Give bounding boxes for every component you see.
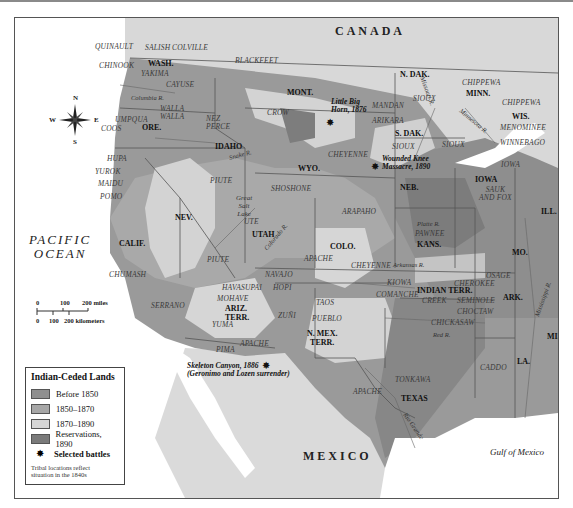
state-texas: TEXAS (401, 395, 428, 403)
tribe-walla-walla: WALLA WALLA (160, 105, 184, 122)
legend-title: Indian-Ceded Lands (31, 372, 119, 382)
tribe-cheyenne-north: CHEYENNE (328, 151, 368, 159)
tribe-blackfeet: BLACKFEET (235, 57, 278, 65)
state-neb: NEB. (400, 184, 418, 192)
ocean-label-line2: OCEAN (29, 247, 91, 261)
compass-s: S (73, 138, 77, 146)
tribe-kiowa: KIOWA (387, 279, 411, 287)
state-miss: MISS. (547, 333, 559, 341)
compass-icon (55, 100, 95, 140)
tribe-crow: CROW (267, 109, 289, 117)
tribe-navajo: NAVAJO (265, 271, 293, 279)
compass-n: N (73, 94, 78, 102)
state-nmex-line2: TERR. (307, 339, 337, 348)
gsl-line2: Salt (236, 202, 252, 210)
scale-bar-line (36, 308, 96, 316)
gulf-label: Gulf of Mexico (490, 448, 544, 457)
tribe-pawnee: PAWNEE (415, 230, 445, 238)
river-columbia: Columbia R. (131, 95, 164, 102)
tribe-walla-line2: WALLA (160, 113, 184, 121)
tribe-nez-perce: NEZ PERCE (206, 115, 230, 132)
battle-wounded-knee-label: Wounded Knee Massacre, 1890 (382, 155, 430, 172)
compass-rose: N S E W (55, 100, 95, 140)
tribe-piute-north: PIUTE (210, 177, 232, 185)
battle-star-icon: ✸ (326, 118, 334, 128)
legend-label: Reservations, 1890 (56, 429, 119, 449)
tribe-comanche: COMANCHE (376, 291, 419, 299)
compass-e: E (94, 116, 99, 124)
top-border (0, 0, 573, 2)
state-wyo: WYO. (298, 165, 320, 173)
river-arkansas: Arkansas R. (393, 262, 424, 269)
tribe-yuma: YUMA (212, 321, 233, 329)
tribe-serrano: SERRANO (151, 302, 185, 310)
great-salt-lake-label: Great Salt Lake (236, 194, 252, 218)
tribe-shoshone: SHOSHONE (271, 185, 311, 193)
state-mont: MONT. (287, 89, 313, 97)
battle-star-icon: ✸ (262, 361, 270, 371)
state-mo: MO. (512, 249, 528, 257)
scale-miles-0: 0 (36, 299, 39, 306)
legend-item-1850-1870: 1850–1870 (31, 401, 119, 416)
scale-km-0: 0 (36, 317, 39, 324)
tribe-yakima: YAKIMA (141, 70, 169, 78)
tribe-apache-texas: APACHE (353, 388, 382, 396)
river-red: Red R. (433, 332, 450, 339)
gsl-line1: Great (236, 194, 252, 202)
tribe-mohave: MOHAVE (217, 295, 249, 303)
legend-item-before-1850: Before 1850 (31, 386, 119, 401)
legend-note-line2: situation in the 1840s (31, 471, 119, 478)
tribe-sauk-line2: AND FOX (479, 194, 512, 202)
legend: Indian-Ceded Lands Before 1850 1850–1870… (25, 367, 125, 485)
ocean-label-line1: PACIFIC (29, 233, 91, 247)
country-label-canada: CANADA (335, 25, 405, 37)
tribe-apache-north: APACHE (304, 255, 333, 263)
state-la: LA. (517, 358, 530, 366)
tribe-salish: SALISH (145, 44, 170, 52)
tribe-iowa: IOWA (501, 161, 520, 169)
river-platte: Platte R. (417, 221, 440, 228)
tribe-chumash: CHUMASH (109, 271, 146, 279)
tribe-sioux-east: SIOUX (442, 141, 465, 149)
tribe-colville: COLVILLE (172, 44, 208, 52)
tribe-menominee: MENOMINEE (500, 124, 546, 132)
scale-km-200: 200 kilometers (64, 317, 105, 324)
state-indian-terr: INDIAN TERR. (417, 287, 472, 295)
legend-swatch (31, 389, 50, 399)
tribe-ute: UTE (244, 218, 259, 226)
tribe-nez-line2: PERCE (206, 123, 230, 131)
tribe-coos: COOS (101, 125, 121, 133)
country-label-mexico: MEXICO (303, 450, 372, 462)
tribe-arapaho: ARAPAHO (342, 208, 376, 216)
skeleton-canyon-line2: (Geronimo and Lozen surrender) (187, 370, 290, 378)
tribe-seminole: SEMINOLE (457, 297, 495, 305)
tribe-arikara: ARIKARA (372, 117, 404, 125)
legend-item-battles: ✸ Selected battles (31, 446, 119, 461)
legend-label: 1850–1870 (56, 404, 94, 414)
tribe-cayuse: CAYUSE (166, 81, 194, 89)
tribe-apache-arizona: APACHE (240, 340, 269, 348)
tribe-hopi: HOPI (273, 284, 292, 292)
battle-little-bighorn-label: Little Big Horn, 1876 (331, 98, 366, 115)
state-nmex: N. MEX. TERR. (307, 330, 337, 348)
tribe-taos: TAOS (316, 299, 334, 307)
legend-note: Tribal locations reflect situation in th… (31, 464, 119, 479)
state-wash: WASH. (148, 60, 174, 68)
state-ark: ARK. (503, 294, 523, 302)
tribe-hupa: HUPA (107, 155, 127, 163)
tribe-piute-south: PIUTE (207, 256, 229, 264)
tribe-pima: PIMA (216, 346, 235, 354)
state-kans: KANS. (417, 241, 441, 249)
little-bighorn-line2: Horn, 1876 (331, 106, 366, 114)
tribe-choctaw: CHOCTAW (457, 308, 493, 316)
legend-item-reservations-1890: Reservations, 1890 (31, 431, 119, 446)
tribe-quinault: QUINAULT (95, 43, 133, 51)
legend-note-line1: Tribal locations reflect (31, 464, 119, 471)
legend-label: Selected battles (54, 449, 110, 459)
scale-km-100: 100 (49, 317, 59, 324)
tribe-caddo: CADDO (480, 364, 507, 372)
tribe-maidu: MAIDU (98, 180, 123, 188)
state-iowa: IOWA (475, 176, 497, 184)
legend-label: 1870–1890 (56, 419, 94, 429)
tribe-mandan: MANDAN (372, 102, 404, 110)
